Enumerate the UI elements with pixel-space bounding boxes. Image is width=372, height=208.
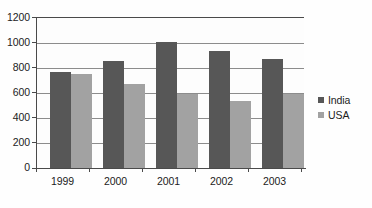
bars-layer <box>36 17 304 168</box>
x-tick-mark <box>301 168 302 172</box>
y-tick-label: 200 <box>0 136 30 148</box>
bar-chart: 1200 1000 800 600 400 200 0 <box>0 0 372 208</box>
legend-label-usa: USA <box>328 109 349 121</box>
legend-item-india[interactable]: India <box>318 93 350 106</box>
bar-usa-2002[interactable] <box>230 101 251 168</box>
legend-swatch-icon <box>318 97 324 103</box>
bar-india-2003[interactable] <box>262 59 283 168</box>
legend-swatch-icon <box>318 112 324 118</box>
x-tick-mark <box>195 168 196 172</box>
legend-label-india: India <box>328 94 350 106</box>
bar-group-2000 <box>102 17 150 168</box>
bar-usa-2001[interactable] <box>177 94 198 168</box>
y-tick-label: 1000 <box>0 36 30 48</box>
x-tick-label-1999: 1999 <box>36 175 89 187</box>
bar-group-1999 <box>49 17 97 168</box>
x-axis-line <box>36 168 306 169</box>
x-tick-mark <box>89 168 90 172</box>
bar-usa-2003[interactable] <box>283 94 304 168</box>
y-tick-label: 400 <box>0 111 30 123</box>
bar-group-2002 <box>208 17 256 168</box>
bar-usa-2000[interactable] <box>124 84 145 168</box>
y-tick-label: 0 <box>0 161 30 173</box>
x-tick-label-2000: 2000 <box>89 175 142 187</box>
bar-usa-1999[interactable] <box>71 74 92 168</box>
legend: India USA <box>318 93 350 123</box>
bar-india-2001[interactable] <box>156 42 177 168</box>
bar-india-1999[interactable] <box>50 72 71 168</box>
x-tick-label-2003: 2003 <box>248 175 301 187</box>
bar-group-2001 <box>155 17 203 168</box>
bar-group-2003 <box>261 17 309 168</box>
y-tick-label: 1200 <box>0 11 30 23</box>
y-tick-label: 800 <box>0 61 30 73</box>
x-tick-label-2001: 2001 <box>142 175 195 187</box>
y-tick-label: 600 <box>0 86 30 98</box>
x-tick-label-2002: 2002 <box>195 175 248 187</box>
bar-india-2000[interactable] <box>103 61 124 168</box>
bar-india-2002[interactable] <box>209 51 230 168</box>
x-tick-mark <box>142 168 143 172</box>
x-tick-mark <box>36 168 37 172</box>
legend-item-usa[interactable]: USA <box>318 108 350 121</box>
x-tick-mark <box>248 168 249 172</box>
